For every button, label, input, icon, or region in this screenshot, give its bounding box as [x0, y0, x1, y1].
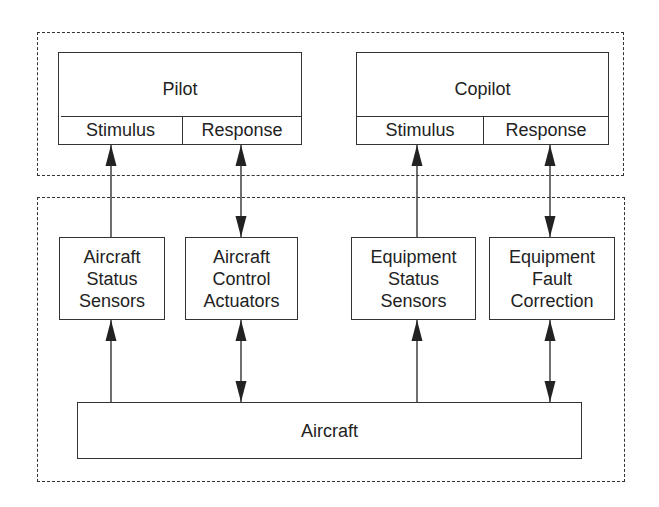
- arrowhead-up-icon: [106, 320, 117, 341]
- arrowhead-up-icon: [412, 145, 423, 166]
- arrowhead-up-icon: [545, 320, 556, 341]
- connector-layer: [0, 0, 659, 507]
- arrowhead-down-icon: [545, 381, 556, 402]
- arrowhead-up-icon: [236, 145, 247, 166]
- arrowhead-up-icon: [236, 320, 247, 341]
- arrowhead-up-icon: [106, 145, 117, 166]
- arrowhead-down-icon: [236, 216, 247, 237]
- arrowhead-up-icon: [545, 145, 556, 166]
- arrowhead-down-icon: [236, 381, 247, 402]
- arrowhead-down-icon: [545, 216, 556, 237]
- arrowhead-up-icon: [412, 320, 423, 341]
